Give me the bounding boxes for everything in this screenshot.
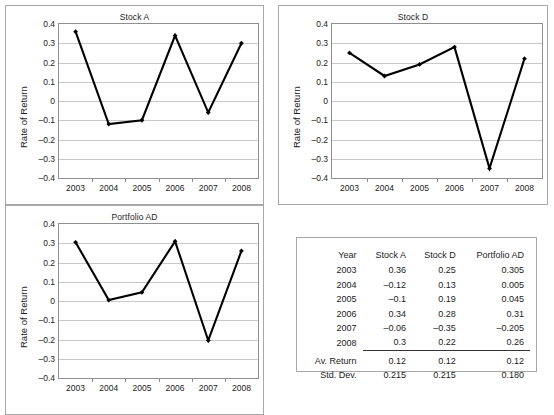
table-row: 2003 0.36 0.25 0.305	[297, 263, 530, 277]
y-tick-label: 0.3	[43, 238, 55, 248]
y-tick-label: –0.2	[311, 135, 328, 145]
y-tick-label: –0.2	[38, 135, 55, 145]
y-tick-label: 0.1	[43, 77, 55, 87]
series-line	[76, 32, 242, 124]
x-tick-label: 2007	[199, 383, 218, 393]
cell-portfolio-ad: 0.180	[462, 368, 530, 382]
y-tick-label: –0.3	[311, 154, 328, 164]
y-tick-label: –0.3	[38, 354, 55, 364]
cell-row-label: Av. Return	[297, 354, 363, 368]
x-tick-label: 2007	[480, 183, 499, 193]
cell-stock-d: 0.215	[412, 368, 462, 382]
x-tick-mark	[92, 378, 93, 382]
cell-stock-d: 0.22	[412, 335, 462, 350]
x-tick-mark	[472, 178, 473, 182]
series-portfolio-ad	[59, 224, 258, 378]
y-tick-label: –0.3	[38, 154, 55, 164]
y-tick-label: –0.4	[38, 173, 55, 183]
x-tick-label: 2006	[445, 183, 464, 193]
y-tick-label: –0.1	[38, 315, 55, 325]
table-row: 2005 –0.1 0.19 0.045	[297, 292, 530, 306]
x-tick-label: 2007	[199, 183, 218, 193]
cell-stock-d: 0.13	[412, 278, 462, 292]
summary-table: Year Stock A Stock D Portfolio AD 2003 0…	[297, 248, 530, 383]
cell-portfolio-ad: 0.26	[462, 335, 530, 350]
table-row: 2007 –0.06 –0.35 –0.205	[297, 321, 530, 335]
x-tick-label: 2005	[132, 383, 151, 393]
cell-portfolio-ad: –0.205	[462, 321, 530, 335]
cell-stock-d: 0.25	[412, 263, 462, 277]
plot-area-stock-d: 0.40.30.20.10–0.1–0.2–0.3–0.420032004200…	[331, 23, 543, 179]
x-tick-label: 2003	[66, 383, 85, 393]
y-tick-label: 0.4	[316, 19, 328, 29]
x-tick-mark	[125, 178, 126, 182]
data-point-marker	[522, 56, 527, 61]
cell-year: 2008	[297, 335, 363, 350]
y-tick-label: 0	[50, 96, 55, 106]
x-tick-mark	[507, 178, 508, 182]
y-tick-label: 0.2	[43, 258, 55, 268]
x-tick-label: 2008	[232, 383, 251, 393]
x-tick-label: 2003	[66, 183, 85, 193]
table-body: 2003 0.36 0.25 0.305 2004 –0.12 0.13 0.0…	[297, 263, 530, 382]
x-tick-mark	[367, 178, 368, 182]
x-tick-mark	[125, 378, 126, 382]
cell-year: 2006	[297, 307, 363, 321]
cell-row-label: Std. Dev.	[297, 368, 363, 382]
x-tick-mark	[402, 178, 403, 182]
x-tick-mark	[159, 378, 160, 382]
cell-portfolio-ad: 0.31	[462, 307, 530, 321]
cell-year: 2007	[297, 321, 363, 335]
cell-portfolio-ad: 0.305	[462, 263, 530, 277]
x-tick-mark	[192, 178, 193, 182]
chart-panel-stock-d: Stock D Rate of Return 0.40.30.20.10–0.1…	[278, 5, 548, 205]
data-point-marker	[487, 166, 492, 171]
cell-year: 2004	[297, 278, 363, 292]
y-axis-label-stock-d: Rate of Return	[291, 86, 302, 148]
cell-stock-d: 0.28	[412, 307, 462, 321]
x-tick-label: 2008	[515, 183, 534, 193]
table-row: 2008 0.3 0.22 0.26	[297, 335, 530, 350]
th-stock-d: Stock D	[412, 248, 462, 263]
x-tick-mark	[192, 378, 193, 382]
y-axis-label-stock-a: Rate of Return	[18, 86, 29, 148]
y-tick-label: –0.4	[311, 173, 328, 183]
y-tick-label: –0.4	[38, 373, 55, 383]
cell-stock-a: 0.3	[363, 335, 412, 350]
cell-stock-a: 0.34	[363, 307, 412, 321]
series-stock-a	[59, 24, 258, 178]
x-tick-label: 2005	[132, 183, 151, 193]
y-tick-label: 0	[50, 296, 55, 306]
y-tick-label: 0.1	[316, 77, 328, 87]
y-tick-label: –0.1	[38, 115, 55, 125]
th-year: Year	[297, 248, 363, 263]
table-row-stddev: Std. Dev. 0.215 0.215 0.180	[297, 368, 530, 382]
y-tick-label: 0.3	[316, 38, 328, 48]
th-stock-a: Stock A	[363, 248, 412, 263]
cell-portfolio-ad: 0.12	[462, 354, 530, 368]
table-row-average: Av. Return 0.12 0.12 0.12	[297, 354, 530, 368]
table-row: 2004 –0.12 0.13 0.005	[297, 278, 530, 292]
x-tick-mark	[225, 378, 226, 382]
y-tick-label: 0.1	[43, 277, 55, 287]
cell-stock-a: –0.06	[363, 321, 412, 335]
x-tick-mark	[92, 178, 93, 182]
series-line	[76, 241, 242, 340]
x-tick-label: 2008	[232, 183, 251, 193]
table-row: 2006 0.34 0.28 0.31	[297, 307, 530, 321]
x-tick-mark	[159, 178, 160, 182]
cell-stock-d: 0.12	[412, 354, 462, 368]
x-tick-label: 2006	[166, 183, 185, 193]
table-header-row: Year Stock A Stock D Portfolio AD	[297, 248, 530, 263]
cell-stock-a: –0.12	[363, 278, 412, 292]
x-tick-label: 2004	[375, 183, 394, 193]
y-tick-label: 0.4	[43, 19, 55, 29]
chart-panel-portfolio-ad: Portfolio AD Rate of Return 0.40.30.20.1…	[5, 205, 264, 415]
y-tick-label: –0.1	[311, 115, 328, 125]
y-tick-label: 0	[323, 96, 328, 106]
cell-stock-a: –0.1	[363, 292, 412, 306]
y-tick-label: 0.4	[43, 219, 55, 229]
y-axis-label-portfolio-ad: Rate of Return	[18, 286, 29, 348]
plot-area-stock-a: 0.40.30.20.10–0.1–0.2–0.3–0.420032004200…	[58, 23, 259, 179]
